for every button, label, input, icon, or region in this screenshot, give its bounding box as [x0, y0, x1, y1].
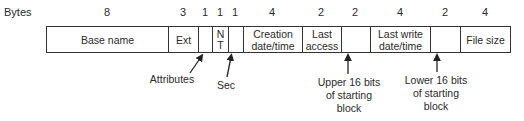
annotation-attributes: Attributes [150, 73, 194, 86]
arrow-sec-icon [227, 57, 231, 77]
annotation-lower-16-bits: Lower 16 bits of starting block [400, 74, 472, 113]
arrow-attributes-icon [190, 57, 201, 73]
annotation-sec: Sec [217, 79, 235, 92]
annotation-upper-16-bits: Upper 16 bits of starting block [313, 76, 385, 115]
